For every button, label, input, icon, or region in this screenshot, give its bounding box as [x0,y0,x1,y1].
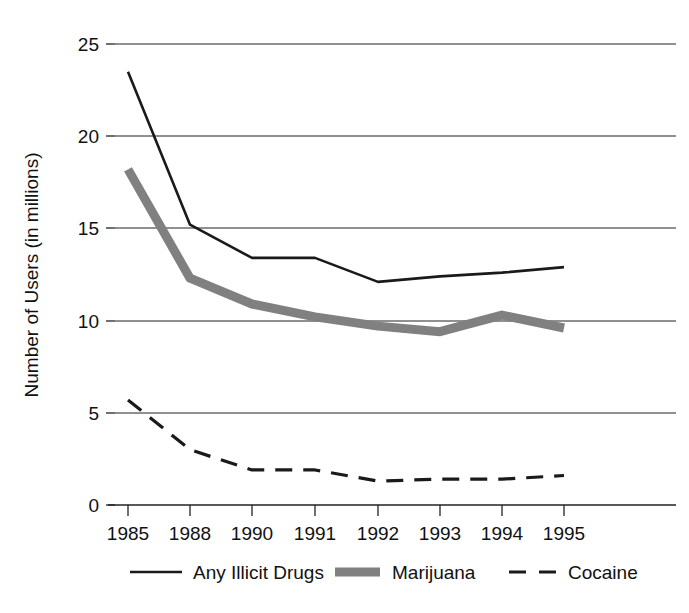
chart-container: Number of Users (in millions) 25 20 15 1… [0,0,689,613]
y-tick-label-0: 0 [88,495,99,516]
series-line-marijuana [128,169,564,331]
line-chart: Number of Users (in millions) 25 20 15 1… [0,0,689,613]
x-tick-label-1990: 1990 [231,523,273,544]
series-line-cocaine [128,400,564,481]
y-tick-label-15: 15 [78,218,99,239]
legend-label-cocaine: Cocaine [568,562,638,583]
legend-label-any-illicit-drugs: Any Illicit Drugs [193,562,324,583]
y-tick-label-20: 20 [78,126,99,147]
x-tick-label-1992: 1992 [357,523,399,544]
x-tick-label-1988: 1988 [169,523,211,544]
chart-legend: Any Illicit Drugs Marijuana Cocaine [130,562,638,583]
x-tick-label-1985: 1985 [107,523,149,544]
y-axis-title: Number of Users (in millions) [21,153,42,398]
x-tick-label-1991: 1991 [294,523,336,544]
series-group [128,72,564,481]
y-tick-label-5: 5 [88,403,99,424]
series-line-any-illicit-drugs [128,72,564,282]
y-tick-label-10: 10 [78,311,99,332]
legend-label-marijuana: Marijuana [392,562,476,583]
x-tick-label-1993: 1993 [419,523,461,544]
x-tick-label-1994: 1994 [481,523,524,544]
y-tick-label-25: 25 [78,34,99,55]
x-tick-label-1995: 1995 [543,523,585,544]
